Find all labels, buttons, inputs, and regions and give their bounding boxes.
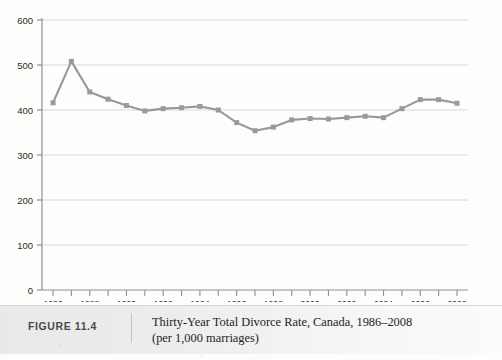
- data-point-marker[interactable]: [142, 108, 147, 113]
- x-axis-tick-label: 2000: [301, 299, 320, 302]
- data-point-marker[interactable]: [51, 100, 56, 105]
- data-point-marker[interactable]: [308, 116, 313, 121]
- data-point-marker[interactable]: [106, 97, 111, 102]
- data-point-marker[interactable]: [253, 128, 258, 133]
- y-axis-tick-label: 500: [17, 60, 33, 71]
- data-point-marker[interactable]: [271, 125, 276, 130]
- x-axis-tick-label: 1998: [264, 299, 283, 302]
- data-point-marker[interactable]: [454, 101, 459, 106]
- y-axis-tick-label: 400: [17, 105, 33, 116]
- x-axis-tick-label: 1994: [190, 299, 209, 302]
- data-point-marker[interactable]: [436, 97, 441, 102]
- data-point-marker[interactable]: [234, 120, 239, 125]
- y-axis-tick-label: 0: [28, 285, 33, 296]
- y-axis-tick-label: 200: [17, 195, 33, 206]
- x-axis-tick-label: 1996: [227, 299, 246, 302]
- line-chart-svg: 0100200300400500600198619881990199219941…: [0, 0, 502, 302]
- x-axis-tick-label: 1988: [80, 299, 99, 302]
- data-point-marker[interactable]: [418, 97, 423, 102]
- data-point-marker[interactable]: [344, 115, 349, 120]
- x-axis-tick-label: 1990: [117, 299, 136, 302]
- caption-line-1: Thirty-Year Total Divorce Rate, Canada, …: [152, 315, 482, 331]
- data-series-line: [53, 61, 457, 130]
- data-point-marker[interactable]: [216, 108, 221, 113]
- y-axis-tick-label: 100: [17, 240, 33, 251]
- x-axis-tick-label: 2004: [374, 299, 393, 302]
- figure-caption: Thirty-Year Total Divorce Rate, Canada, …: [152, 315, 482, 346]
- x-axis-tick-label: 1992: [154, 299, 173, 302]
- data-point-marker[interactable]: [197, 104, 202, 109]
- data-point-marker[interactable]: [161, 106, 166, 111]
- y-axis-tick-label: 300: [17, 150, 33, 161]
- y-axis-tick-label: 600: [17, 15, 33, 26]
- data-point-marker[interactable]: [124, 103, 129, 108]
- data-point-marker[interactable]: [179, 105, 184, 110]
- x-axis-tick-label: 2006: [411, 299, 430, 302]
- caption-vertical-divider: [131, 313, 132, 343]
- figure-number-label: FIGURE 11.4: [28, 320, 97, 332]
- data-point-marker[interactable]: [69, 59, 74, 64]
- data-point-marker[interactable]: [326, 117, 331, 122]
- data-point-marker[interactable]: [289, 117, 294, 122]
- x-axis-tick-label: 1986: [43, 299, 62, 302]
- chart-plot-area: 0100200300400500600198619881990199219941…: [0, 0, 502, 302]
- x-axis-tick-label: 2002: [337, 299, 356, 302]
- data-point-marker[interactable]: [381, 115, 386, 120]
- data-point-marker[interactable]: [87, 90, 92, 95]
- figure-container: 0100200300400500600198619881990199219941…: [0, 0, 502, 360]
- x-axis-tick-label: 2008: [447, 299, 466, 302]
- caption-line-2: (per 1,000 marriages): [152, 331, 482, 347]
- data-point-marker[interactable]: [399, 106, 404, 111]
- data-point-marker[interactable]: [363, 114, 368, 119]
